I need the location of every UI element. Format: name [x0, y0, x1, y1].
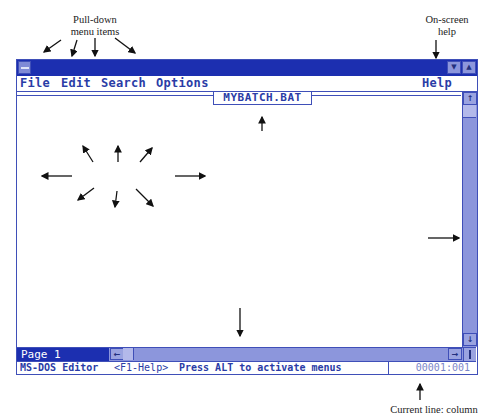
- annotation-arrows: [0, 0, 493, 420]
